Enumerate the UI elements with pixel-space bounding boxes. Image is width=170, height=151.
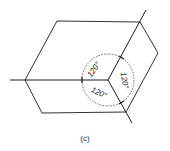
isometric-diagram: 120° 120° 120° (c) — [0, 0, 170, 151]
axis-up-right — [108, 10, 146, 80]
figure-caption: (c) — [80, 134, 90, 143]
box-top-edges — [25, 21, 140, 80]
angle-label-right: 120° — [119, 72, 131, 91]
angle-label-upper: 120° — [86, 60, 103, 79]
angle-label-lower: 120° — [90, 85, 110, 100]
isometric-axes — [10, 10, 146, 123]
